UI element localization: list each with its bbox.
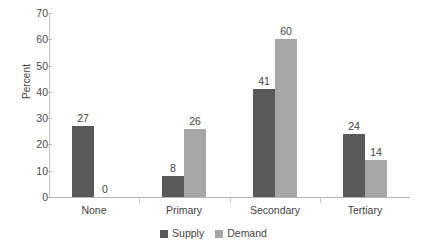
x-axis-category-label: Secondary bbox=[230, 204, 320, 216]
legend-item-supply[interactable]: Supply bbox=[160, 228, 204, 239]
legend-swatch-demand bbox=[215, 230, 223, 238]
y-axis-tick-label: 40 bbox=[26, 87, 48, 97]
bar-demand-tertiary[interactable] bbox=[365, 160, 387, 197]
legend-label-demand: Demand bbox=[227, 228, 267, 239]
bar-demand-secondary[interactable] bbox=[275, 39, 297, 197]
legend-swatch-supply bbox=[160, 230, 168, 238]
legend-item-demand[interactable]: Demand bbox=[215, 228, 267, 239]
y-axis-tick-label: 70 bbox=[26, 8, 48, 18]
bar-value-label: 0 bbox=[88, 184, 122, 195]
bar-supply-tertiary[interactable] bbox=[343, 134, 365, 197]
bar-value-label: 24 bbox=[337, 121, 371, 132]
bar-value-label: 60 bbox=[269, 26, 303, 37]
x-axis-separator-tick bbox=[320, 198, 321, 203]
x-axis-category-label: Tertiary bbox=[320, 204, 410, 216]
y-axis-tick-label: 30 bbox=[26, 113, 48, 123]
y-axis-tick-label: 10 bbox=[26, 166, 48, 176]
y-axis-tick-label: 50 bbox=[26, 61, 48, 71]
y-axis-tick-label: 20 bbox=[26, 139, 48, 149]
bar-value-label: 27 bbox=[66, 113, 100, 124]
bar-value-label: 14 bbox=[359, 147, 393, 158]
chart-legend: Supply Demand bbox=[0, 228, 427, 239]
legend-label-supply: Supply bbox=[172, 228, 204, 239]
x-axis-category-label: None bbox=[49, 204, 139, 216]
y-axis-line bbox=[49, 13, 50, 198]
bar-demand-primary[interactable] bbox=[184, 129, 206, 197]
bar-value-label: 26 bbox=[178, 116, 212, 127]
bar-supply-primary[interactable] bbox=[162, 176, 184, 197]
x-axis-separator-tick bbox=[139, 198, 140, 203]
x-axis-separator-tick bbox=[230, 198, 231, 203]
bar-supply-secondary[interactable] bbox=[253, 89, 275, 197]
y-axis-tick-label: 0 bbox=[26, 192, 48, 202]
x-axis-category-label: Primary bbox=[139, 204, 229, 216]
bar-chart: Percent 010203040506070 27082641602414 S… bbox=[0, 0, 427, 250]
y-axis-tick-label: 60 bbox=[26, 34, 48, 44]
